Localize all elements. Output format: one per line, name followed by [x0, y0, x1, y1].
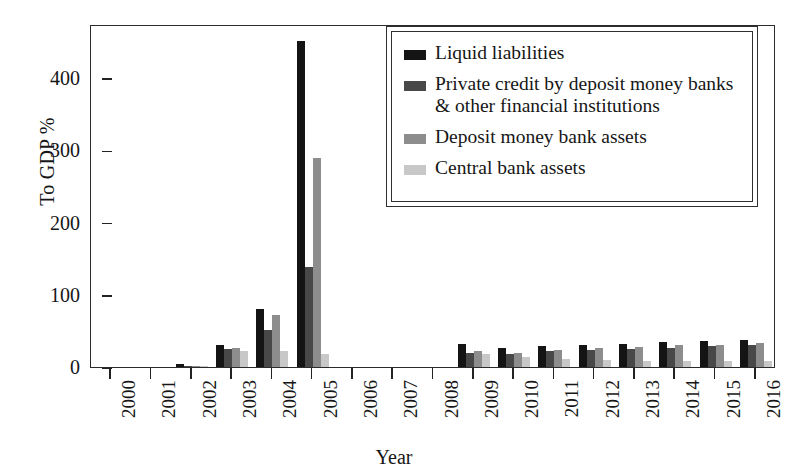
- bar-group: [172, 26, 212, 367]
- x-tick-mark: [230, 368, 232, 379]
- legend-item[interactable]: Deposit money bank assets: [404, 126, 740, 148]
- bar: [587, 350, 595, 367]
- x-tick-mark: [633, 368, 635, 379]
- bar: [562, 359, 570, 367]
- x-axis-tick-marks: [90, 368, 775, 380]
- bar-group: [333, 26, 373, 367]
- x-tick-mark: [714, 368, 716, 379]
- x-tick-label: 2007: [401, 380, 420, 450]
- x-tick-mark: [512, 368, 514, 379]
- x-tick-mark: [553, 368, 555, 379]
- y-tick-label: 400: [22, 68, 80, 88]
- x-tick-mark: [593, 368, 595, 379]
- x-tick-mark: [754, 368, 756, 379]
- bar: [474, 351, 482, 367]
- x-axis-tick-labels: 2000200120022003200420052006200720082009…: [90, 380, 775, 450]
- x-tick-mark: [351, 368, 353, 379]
- bar: [514, 353, 522, 367]
- bar: [240, 351, 248, 367]
- x-tick-label: 2003: [240, 380, 259, 450]
- bar: [546, 351, 554, 367]
- bar-group: [212, 26, 252, 367]
- bar: [498, 348, 506, 367]
- bar: [667, 348, 675, 367]
- y-tick-label: 200: [22, 213, 80, 233]
- bar: [756, 343, 764, 367]
- x-tick-label: 2011: [562, 380, 581, 450]
- legend-swatch-icon: [404, 81, 426, 91]
- bar: [538, 346, 546, 367]
- bar: [522, 357, 530, 367]
- x-tick-label: 2013: [643, 380, 662, 450]
- x-tick-label: 2009: [482, 380, 501, 450]
- x-tick-mark: [391, 368, 393, 379]
- bar: [619, 344, 627, 367]
- legend-swatch-icon: [404, 134, 426, 144]
- x-tick-label: 2008: [442, 380, 461, 450]
- bar: [272, 315, 280, 367]
- x-tick-mark: [472, 368, 474, 379]
- bar: [716, 345, 724, 367]
- x-tick-label: 2014: [683, 380, 702, 450]
- legend-inner: Liquid liabilitiesPrivate credit by depo…: [391, 31, 753, 202]
- bar: [458, 344, 466, 367]
- x-axis-title: Year: [0, 446, 788, 469]
- bar: [740, 340, 748, 367]
- x-tick-label: 2006: [361, 380, 380, 450]
- bar: [184, 366, 192, 367]
- y-tick-label: 100: [22, 285, 80, 305]
- bar-group: [292, 26, 332, 367]
- x-tick-mark: [150, 368, 152, 379]
- x-tick-mark: [109, 368, 111, 379]
- bar: [579, 345, 587, 367]
- bar: [675, 345, 683, 367]
- bar: [708, 346, 716, 367]
- bar: [192, 366, 200, 367]
- bar-group: [131, 26, 171, 367]
- bar: [659, 342, 667, 367]
- bar: [627, 349, 635, 367]
- x-tick-mark: [271, 368, 273, 379]
- bar: [603, 360, 611, 367]
- legend-label: Central bank assets: [435, 157, 586, 179]
- bar: [321, 354, 329, 367]
- legend-item[interactable]: Private credit by deposit money banks & …: [404, 73, 740, 117]
- x-tick-label: 2005: [321, 380, 340, 450]
- legend-label: Deposit money bank assets: [435, 126, 647, 148]
- bar: [200, 366, 208, 367]
- bar: [635, 347, 643, 367]
- bar: [264, 330, 272, 367]
- bar: [305, 267, 313, 367]
- legend-item[interactable]: Liquid liabilities: [404, 42, 740, 64]
- x-tick-label: 2000: [119, 380, 138, 450]
- legend: Liquid liabilitiesPrivate credit by depo…: [386, 26, 758, 207]
- x-tick-label: 2016: [764, 380, 783, 450]
- bar: [176, 364, 184, 367]
- legend-swatch-icon: [404, 165, 426, 175]
- bar: [700, 341, 708, 367]
- y-axis-tick-labels: 0100200300400: [22, 0, 80, 476]
- x-tick-label: 2004: [280, 380, 299, 450]
- bar: [554, 350, 562, 367]
- chart-figure: To GDP % 0100200300400 20002001200220032…: [0, 0, 788, 476]
- bar: [297, 41, 305, 367]
- bar: [683, 361, 691, 367]
- bar: [643, 361, 651, 367]
- x-tick-mark: [432, 368, 434, 379]
- bar: [748, 345, 756, 367]
- y-tick-label: 300: [22, 140, 80, 160]
- legend-label: Liquid liabilities: [435, 42, 564, 64]
- bar: [256, 309, 264, 367]
- legend-item[interactable]: Central bank assets: [404, 157, 740, 179]
- bar: [216, 345, 224, 367]
- x-tick-mark: [673, 368, 675, 379]
- bar: [313, 158, 321, 367]
- bar-group: [252, 26, 292, 367]
- bar-group: [91, 26, 131, 367]
- bar: [595, 348, 603, 367]
- legend-label: Private credit by deposit money banks & …: [435, 73, 735, 117]
- x-tick-label: 2001: [159, 380, 178, 450]
- bar: [224, 349, 232, 367]
- x-tick-mark: [190, 368, 192, 379]
- bar: [466, 353, 474, 367]
